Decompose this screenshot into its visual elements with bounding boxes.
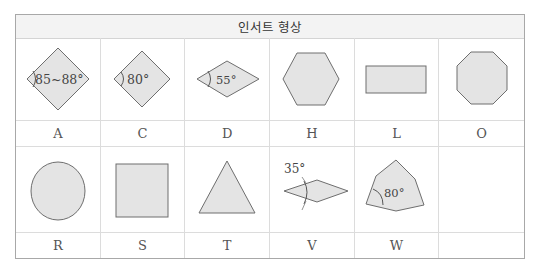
- svg-text:80°: 80°: [127, 72, 149, 87]
- hexagon-icon: [277, 44, 347, 114]
- trigon-icon: 80°: [361, 155, 431, 225]
- svg-text:80°: 80°: [384, 186, 404, 200]
- cell-shape-s: [101, 147, 186, 233]
- rhombus-55-icon: 55°: [192, 44, 262, 114]
- cell-shape-l: [355, 38, 440, 121]
- code-label-l: L: [355, 121, 440, 147]
- code-label-r: R: [16, 233, 101, 258]
- cell-shape-o: [439, 38, 524, 121]
- insert-shape-table: 인서트 형상 85~88° 80° 55°: [15, 14, 525, 259]
- cell-shape-h: [270, 38, 355, 121]
- square-icon: [107, 155, 177, 225]
- cell-shape-d: 55°: [185, 38, 270, 121]
- code-label-empty: [439, 233, 524, 258]
- svg-text:35°: 35°: [284, 162, 305, 176]
- code-label-d: D: [185, 121, 270, 147]
- rectangle-icon: [361, 44, 431, 114]
- cell-shape-v: 35°: [270, 147, 355, 233]
- shape-grid: 85~88° 80° 55°: [16, 38, 524, 258]
- table-title: 인서트 형상: [16, 15, 524, 39]
- cell-shape-t: [185, 147, 270, 233]
- rhombus-80-icon: 80°: [107, 44, 177, 114]
- code-label-c: C: [101, 121, 186, 147]
- svg-text:85~88°: 85~88°: [35, 72, 84, 87]
- code-label-v: V: [270, 233, 355, 258]
- svg-text:55°: 55°: [216, 73, 236, 87]
- cell-shape-r: [16, 147, 101, 233]
- cell-empty: [439, 147, 524, 233]
- cell-shape-w: 80°: [355, 147, 440, 233]
- code-label-h: H: [270, 121, 355, 147]
- rhombus-35-icon: 35°: [272, 155, 352, 225]
- circle-icon: [23, 155, 93, 225]
- cell-shape-a: 85~88°: [16, 38, 101, 121]
- code-label-o: O: [439, 121, 524, 147]
- code-label-a: A: [16, 121, 101, 147]
- triangle-icon: [192, 155, 262, 225]
- octagon-icon: [447, 44, 517, 114]
- code-label-w: W: [355, 233, 440, 258]
- code-label-s: S: [101, 233, 186, 258]
- code-label-t: T: [185, 233, 270, 258]
- rhombus-85-88-icon: 85~88°: [23, 44, 93, 114]
- cell-shape-c: 80°: [101, 38, 186, 121]
